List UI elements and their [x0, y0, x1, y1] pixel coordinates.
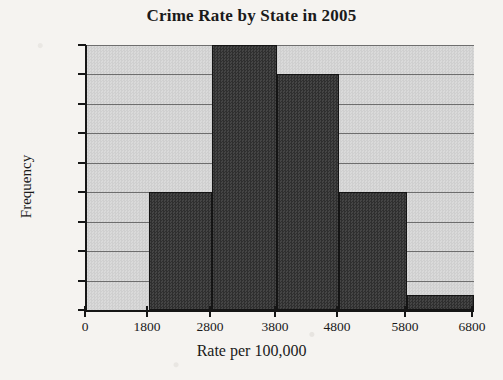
x-tick-mark-5800: [404, 306, 406, 317]
x-tick-label: 2800: [175, 319, 245, 335]
x-tick-mark-2800: [209, 306, 211, 317]
x-tick-mark-4800: [336, 306, 338, 317]
x-tick-mark-3800: [274, 306, 276, 317]
y-tick-mark-2: [78, 280, 86, 282]
y-axis-title: Frequency: [18, 117, 35, 257]
y-tick-mark-12: [78, 132, 86, 134]
histogram-bar: [407, 295, 474, 310]
x-tick-mark-0: [84, 306, 86, 317]
histogram-bar: [149, 192, 212, 310]
x-axis-line: [85, 310, 474, 312]
histogram-bar: [277, 74, 339, 310]
x-tick-label: 5800: [370, 319, 440, 335]
gridline-18: [87, 45, 474, 46]
plot-area: [85, 45, 474, 310]
x-tick-label: 6800: [437, 319, 503, 335]
x-tick-mark-1800: [146, 306, 148, 317]
x-tick-label: 0: [50, 319, 120, 335]
x-tick-label: 3800: [240, 319, 310, 335]
y-tick-mark-16: [78, 73, 86, 75]
x-axis-title: Rate per 100,000: [0, 342, 503, 360]
x-tick-mark-6800: [471, 306, 473, 317]
y-tick-mark-14: [78, 103, 86, 105]
y-tick-mark-8: [78, 191, 86, 193]
x-tick-label: 4800: [302, 319, 372, 335]
histogram-bar: [339, 192, 407, 310]
y-tick-mark-6: [78, 221, 86, 223]
chart-title: Crime Rate by State in 2005: [0, 6, 503, 26]
x-tick-label: 1800: [112, 319, 182, 335]
histogram-bar: [212, 45, 277, 310]
y-tick-mark-10: [78, 162, 86, 164]
y-tick-mark-4: [78, 250, 86, 252]
y-tick-mark-18: [78, 44, 86, 46]
